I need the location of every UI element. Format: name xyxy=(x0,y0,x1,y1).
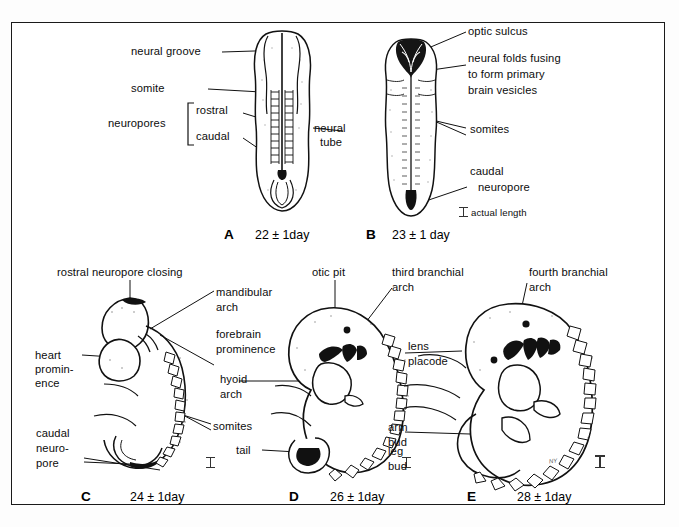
label-third-branchial-line1: third branchial xyxy=(392,266,464,279)
label-leg-bud-line1: leg xyxy=(388,445,403,458)
label-otic-pit: otic pit xyxy=(312,266,345,279)
panel-letter-b: B xyxy=(366,227,376,242)
panel-letter-a: A xyxy=(224,227,234,242)
label-arm-bud-line1: arm xyxy=(388,421,408,434)
label-optic-sulcus: optic sulcus xyxy=(468,25,528,38)
label-somites-c: somites xyxy=(213,420,252,433)
label-neural-tube-line2: tube xyxy=(320,136,342,149)
label-neural-tube-line1: neural xyxy=(314,122,346,135)
caption-c: 24 ± 1day xyxy=(130,490,184,504)
scale-bar-b xyxy=(459,207,468,217)
embryo-drawing-e xyxy=(0,0,679,527)
label-mandibular-arch-line1: mandibular xyxy=(216,286,272,299)
label-heart-prominence-line1: heart xyxy=(35,349,61,362)
label-mandibular-arch-line2: arch xyxy=(216,301,238,314)
label-neural-groove: neural groove xyxy=(131,45,201,58)
label-caudal-c-line1: caudal xyxy=(36,427,70,440)
label-rostral: rostral xyxy=(196,104,228,117)
label-forebrain-prominence-line1: forebrain xyxy=(216,328,261,341)
scale-bar-c xyxy=(206,457,215,468)
caption-b: 23 ± 1 day xyxy=(392,228,450,242)
artist-signature: NY xyxy=(548,454,558,468)
label-somite: somite xyxy=(131,82,165,95)
caption-d: 26 ± 1day xyxy=(330,490,384,504)
embryology-figure: neural groove somite neuropores rostral … xyxy=(0,0,679,527)
label-fourth-branchial-line2: arch xyxy=(529,281,551,294)
label-lens-placode-line2: placode xyxy=(408,355,448,368)
label-caudal-b-line2: neuropore xyxy=(478,181,530,194)
label-actual-length: actual length xyxy=(471,206,527,219)
label-rostral-neuropore-closing: rostral neuropore closing xyxy=(57,266,183,279)
label-forebrain-prominence-line2: prominence xyxy=(216,343,275,356)
caption-e: 28 ± 1day xyxy=(517,490,571,504)
label-neural-folds-line2: to form primary xyxy=(468,68,545,81)
label-neuropores: neuropores xyxy=(108,117,166,130)
label-fourth-branchial-line1: fourth branchial xyxy=(529,266,608,279)
caption-a: 22 ± 1day xyxy=(255,228,309,242)
label-lens-placode-line1: lens xyxy=(408,340,429,353)
label-caudal-c-line2: neuro- xyxy=(36,442,69,455)
label-neural-folds-line3: brain vesicles xyxy=(468,84,537,97)
label-heart-prominence-line3: ence xyxy=(35,377,60,390)
label-caudal: caudal xyxy=(196,130,230,143)
label-third-branchial-line2: arch xyxy=(392,281,414,294)
label-tail: tail xyxy=(236,444,251,457)
label-neural-folds-line1: neural folds fusing xyxy=(468,52,561,65)
panel-letter-c: C xyxy=(81,489,91,504)
label-leg-bud-line2: bud xyxy=(388,460,407,473)
panel-letter-d: D xyxy=(289,489,299,504)
label-somites-b: somites xyxy=(470,123,509,136)
label-hyoid-arch-line2: arch xyxy=(220,388,242,401)
panel-letter-e: E xyxy=(467,489,476,504)
scale-bar-e xyxy=(595,455,605,468)
label-heart-prominence-line2: promin- xyxy=(35,363,74,376)
label-caudal-b-line1: caudal xyxy=(470,165,504,178)
label-hyoid-arch-line1: hyoid xyxy=(220,373,247,386)
label-caudal-c-line3: pore xyxy=(36,457,59,470)
